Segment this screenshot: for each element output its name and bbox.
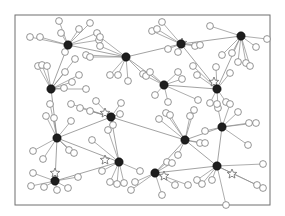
leaf-node-circle-icon xyxy=(89,137,96,144)
leaf-node-circle-icon xyxy=(54,187,61,194)
hub-edge xyxy=(217,127,222,166)
leaf-edge xyxy=(217,164,263,166)
leaf-node-circle-icon xyxy=(71,150,78,157)
leaf-node-circle-icon xyxy=(51,115,58,122)
leaf-node-circle-icon xyxy=(99,168,106,175)
leaf-node-circle-icon xyxy=(165,99,172,106)
leaf-node-circle-icon xyxy=(253,44,260,51)
hub-node-icon xyxy=(51,177,59,185)
leaf-node-circle-icon xyxy=(62,69,69,76)
leaf-node-circle-icon xyxy=(179,76,186,83)
hub-node-icon xyxy=(218,123,226,131)
leaf-node-circle-icon xyxy=(128,187,135,194)
leaf-node-circle-icon xyxy=(172,182,179,189)
leaf-node-circle-icon xyxy=(175,69,182,76)
leaf-node-circle-icon xyxy=(156,116,163,123)
leaf-node-circle-icon xyxy=(41,184,48,191)
leaf-node-circle-icon xyxy=(30,170,37,177)
leaf-node-circle-icon xyxy=(87,20,94,27)
leaf-node-circle-icon xyxy=(47,101,54,108)
hub-node-icon xyxy=(160,81,168,89)
leaf-node-circle-icon xyxy=(97,34,104,41)
hub-node-icon xyxy=(53,134,61,142)
leaf-node-circle-icon xyxy=(169,160,176,167)
leaf-node-circle-icon xyxy=(69,79,76,86)
leaf-node-circle-icon xyxy=(175,152,182,159)
leaf-node-circle-icon xyxy=(190,63,197,70)
leaf-edge xyxy=(222,127,248,145)
leaf-node-circle-icon xyxy=(137,168,144,175)
leaf-edge xyxy=(217,166,226,205)
leaf-node-circle-icon xyxy=(132,179,139,186)
leaf-node-circle-icon xyxy=(199,181,206,188)
leaf-node-circle-icon xyxy=(152,92,159,99)
leaf-node-circle-icon xyxy=(75,174,82,181)
leaf-node-circle-icon xyxy=(44,63,51,70)
leaf-node-circle-icon xyxy=(68,118,75,125)
hub-edge xyxy=(126,44,181,57)
leaf-node-circle-icon xyxy=(227,70,234,77)
leaf-node-circle-icon xyxy=(28,183,35,190)
leaf-node-circle-icon xyxy=(107,72,114,79)
leaf-node-circle-icon xyxy=(202,128,209,135)
leaf-node-circle-icon xyxy=(125,78,132,85)
leaf-node-circle-icon xyxy=(167,112,174,119)
hub-edge xyxy=(57,117,111,138)
leaf-node-circle-icon xyxy=(68,101,75,108)
leaf-node-circle-icon xyxy=(114,181,121,188)
hub-edge xyxy=(111,117,185,140)
hub-edge xyxy=(181,36,241,44)
hub-node-icon xyxy=(213,85,221,93)
leaf-node-circle-icon xyxy=(213,64,220,71)
leaf-node-circle-icon xyxy=(194,72,201,79)
leaf-node-circle-icon xyxy=(76,72,83,79)
leaf-node-circle-icon xyxy=(219,52,226,59)
hub-node-icon xyxy=(177,40,185,48)
leaf-node-circle-icon xyxy=(83,86,90,93)
leaf-node-circle-icon xyxy=(187,113,194,120)
leaf-node-circle-icon xyxy=(56,18,63,25)
leaf-node-circle-icon xyxy=(246,120,253,127)
leaf-node-circle-icon xyxy=(43,113,50,120)
leaf-edge xyxy=(152,31,181,44)
leaf-node-circle-icon xyxy=(214,101,221,108)
leaf-node-circle-icon xyxy=(117,111,124,118)
leaf-node-circle-icon xyxy=(260,185,267,192)
network-diagram xyxy=(0,0,285,216)
leaf-node-circle-icon xyxy=(202,140,209,147)
leaf-node-circle-icon xyxy=(247,63,254,70)
hub-node-icon xyxy=(237,32,245,40)
leaf-node-circle-icon xyxy=(165,46,172,53)
leaf-node-circle-icon xyxy=(185,182,192,189)
leaf-node-circle-icon xyxy=(77,105,84,112)
hub-node-icon xyxy=(64,41,72,49)
hub-edge xyxy=(55,162,119,181)
leaf-node-circle-icon xyxy=(253,120,260,127)
leaf-node-circle-icon xyxy=(118,100,125,107)
leaf-node-circle-icon xyxy=(264,36,271,43)
leaf-node-circle-icon xyxy=(245,142,252,149)
hub-node-icon xyxy=(107,113,115,121)
leaf-node-circle-icon xyxy=(72,56,79,63)
hub-node-icon xyxy=(47,85,55,93)
leaf-node-circle-icon xyxy=(76,26,83,33)
leaf-node-circle-icon xyxy=(195,97,202,104)
hub-node-icon xyxy=(151,169,159,177)
star-node-icon xyxy=(100,155,110,164)
leaf-node-circle-icon xyxy=(115,72,122,79)
leaf-node-circle-icon xyxy=(197,42,204,49)
leaf-node-circle-icon xyxy=(62,49,69,56)
leaf-node-circle-icon xyxy=(61,85,68,92)
leaf-edge xyxy=(159,119,185,140)
leaf-edge xyxy=(210,26,241,36)
leaf-edge xyxy=(30,37,68,45)
leaf-node-circle-icon xyxy=(147,69,154,76)
leaf-node-circle-icon xyxy=(175,49,182,56)
leaf-node-circle-icon xyxy=(235,109,242,116)
leaf-node-circle-icon xyxy=(223,202,230,209)
leaf-node-circle-icon xyxy=(27,34,34,41)
leaf-node-circle-icon xyxy=(58,30,65,37)
leaf-node-circle-icon xyxy=(159,19,166,26)
star-node-icon xyxy=(227,169,237,178)
leaf-node-circle-icon xyxy=(207,23,214,30)
